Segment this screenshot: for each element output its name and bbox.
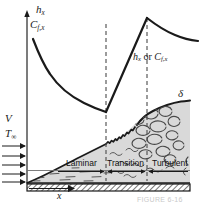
laminar-zone-label: Laminar <box>66 158 97 168</box>
y-axis <box>24 10 29 183</box>
transition-zone-label: Transition <box>107 158 144 168</box>
flat-plate <box>27 183 190 191</box>
inflow-temperature-label: T∞ <box>5 128 16 141</box>
hx-cfx-curve <box>33 18 198 112</box>
turbulent-zone-label: Turbulent <box>152 158 188 168</box>
figure-caption: FIGURE 6-16 <box>137 196 183 203</box>
y-axis-label-cfx: Cf,x <box>30 19 44 32</box>
boundary-layer-thickness-label: δ <box>178 88 183 99</box>
laminar-branch <box>33 39 106 112</box>
x-axis-label: x <box>57 191 61 201</box>
inflow-velocity-label: V <box>5 113 12 124</box>
figure-boundary-layer-flat-plate: hx Cf,x V T∞ hx or Cf,x δ x Laminar Tran… <box>0 0 204 205</box>
curve-label-hx-or-cfx: hx or Cf,x <box>133 52 167 63</box>
inflow-arrows <box>2 146 25 182</box>
transition-branch <box>106 18 147 112</box>
y-axis-label-hx: hx <box>36 4 45 17</box>
turbulent-branch <box>147 18 198 41</box>
